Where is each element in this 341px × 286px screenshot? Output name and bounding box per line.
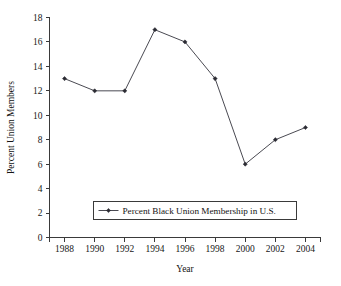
x-tick-label: 2004	[296, 244, 315, 254]
chart-background	[0, 0, 341, 286]
legend-label: Percent Black Union Membership in U.S.	[123, 206, 276, 216]
line-chart: 024681012141618 198819901992199419961998…	[0, 0, 341, 286]
y-tick-label: 16	[33, 37, 43, 47]
y-tick-label: 18	[33, 13, 43, 23]
y-tick-label: 4	[38, 184, 43, 194]
x-tick-label: 1992	[115, 244, 134, 254]
y-tick-label: 0	[38, 233, 43, 243]
y-tick-label: 2	[38, 208, 43, 218]
y-tick-label: 10	[33, 111, 43, 121]
chart-legend: Percent Black Union Membership in U.S.	[94, 202, 297, 220]
x-tick-label: 2002	[266, 244, 285, 254]
x-tick-label: 1996	[176, 244, 195, 254]
y-axis-title: Percent Union Members	[6, 81, 16, 174]
y-tick-label: 6	[38, 160, 43, 170]
y-tick-label: 14	[33, 62, 43, 72]
chart-container: 024681012141618 198819901992199419961998…	[0, 0, 341, 286]
x-axis-title: Year	[176, 264, 194, 274]
x-tick-label: 1988	[55, 244, 74, 254]
y-tick-label: 8	[38, 135, 43, 145]
x-tick-label: 1990	[85, 244, 104, 254]
x-tick-label: 1994	[145, 244, 164, 254]
x-tick-label: 2000	[236, 244, 255, 254]
y-tick-label: 12	[33, 86, 43, 96]
x-tick-label: 1998	[206, 244, 225, 254]
